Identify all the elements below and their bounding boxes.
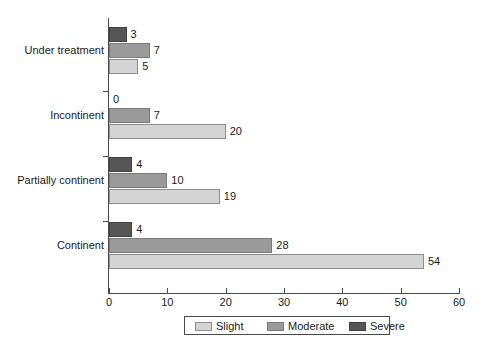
bar-value-incontinent-moderate: 7 bbox=[154, 109, 160, 122]
x-tick-60 bbox=[459, 288, 460, 294]
bar-continent-severe bbox=[109, 222, 132, 237]
x-tick-30 bbox=[284, 288, 285, 294]
category-label-partially-continent: Partially continent bbox=[17, 174, 104, 187]
category-label-continent: Continent bbox=[57, 239, 104, 252]
x-tick-label-30: 30 bbox=[269, 296, 299, 309]
legend-label-slight: Slight bbox=[216, 320, 244, 333]
bar-partially-continent-slight bbox=[109, 189, 220, 204]
bar-value-continent-moderate: 28 bbox=[276, 239, 288, 252]
bar-value-incontinent-slight: 20 bbox=[230, 125, 242, 138]
bar-chart: 0102030405060 Under treatmentIncontinent… bbox=[0, 0, 479, 354]
bar-partially-continent-severe bbox=[109, 157, 132, 172]
bar-incontinent-moderate bbox=[109, 108, 150, 123]
bar-value-partially-continent-severe: 4 bbox=[136, 158, 142, 171]
legend-label-moderate: Moderate bbox=[288, 320, 334, 333]
x-tick-label-60: 60 bbox=[444, 296, 474, 309]
y-group-tick-0 bbox=[103, 91, 109, 92]
legend-swatch-slight-icon bbox=[195, 322, 212, 331]
x-tick-label-20: 20 bbox=[211, 296, 241, 309]
bar-value-partially-continent-slight: 19 bbox=[224, 190, 236, 203]
legend-item-severe[interactable]: Severe bbox=[349, 320, 405, 333]
x-tick-label-10: 10 bbox=[152, 296, 182, 309]
bar-value-under-treatment-slight: 5 bbox=[142, 60, 148, 73]
bar-value-incontinent-severe: 0 bbox=[113, 93, 119, 106]
bar-value-under-treatment-moderate: 7 bbox=[154, 44, 160, 57]
bar-under-treatment-moderate bbox=[109, 43, 150, 58]
x-tick-label-0: 0 bbox=[94, 296, 124, 309]
bar-value-under-treatment-severe: 3 bbox=[131, 28, 137, 41]
x-tick-label-40: 40 bbox=[327, 296, 357, 309]
x-tick-label-50: 50 bbox=[386, 296, 416, 309]
legend-label-severe: Severe bbox=[370, 320, 405, 333]
legend-swatch-moderate-icon bbox=[267, 322, 284, 331]
category-label-incontinent: Incontinent bbox=[50, 109, 104, 122]
bar-value-continent-slight: 54 bbox=[428, 255, 440, 268]
x-tick-50 bbox=[401, 288, 402, 294]
bar-partially-continent-moderate bbox=[109, 173, 167, 188]
chart-legend: SlightModerateSevere bbox=[184, 316, 390, 335]
legend-swatch-severe-icon bbox=[349, 322, 366, 331]
x-tick-20 bbox=[226, 288, 227, 294]
bar-value-partially-continent-moderate: 10 bbox=[171, 174, 183, 187]
legend-item-slight[interactable]: Slight bbox=[195, 320, 244, 333]
bar-incontinent-slight bbox=[109, 124, 226, 139]
bar-under-treatment-severe bbox=[109, 27, 127, 42]
x-tick-10 bbox=[167, 288, 168, 294]
x-tick-40 bbox=[342, 288, 343, 294]
legend-item-moderate[interactable]: Moderate bbox=[267, 320, 334, 333]
category-label-under-treatment: Under treatment bbox=[25, 44, 104, 57]
bar-under-treatment-slight bbox=[109, 59, 138, 74]
bar-continent-moderate bbox=[109, 238, 272, 253]
bar-continent-slight bbox=[109, 254, 424, 269]
x-tick-0 bbox=[109, 288, 110, 294]
bar-value-continent-severe: 4 bbox=[136, 223, 142, 236]
